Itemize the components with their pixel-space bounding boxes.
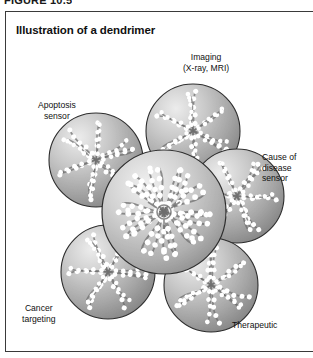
figure-number: FIGURE 10.5 [4,0,72,4]
label-cancer-targeting: Cancer targeting [22,303,55,324]
label-cause-of-disease: Cause of disease sensor [262,152,296,184]
panel-title: Illustration of a dendrimer [16,24,155,36]
label-apoptosis: Apoptosis sensor [38,100,76,121]
label-imaging: Imaging (X-ray, MRI) [183,52,229,73]
label-therapeutic: Therapeutic [232,320,277,331]
